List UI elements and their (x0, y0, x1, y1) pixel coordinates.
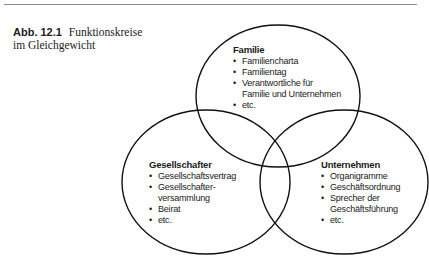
list-item: etc. (149, 215, 236, 226)
list-item: etc. (321, 215, 400, 226)
list-item: Organigramme (321, 171, 400, 182)
list-item: Familientag (233, 67, 341, 78)
list-item-continuation: Familie und Unternehmen (233, 89, 341, 100)
list-item-continuation: Geschäftsführung (321, 204, 400, 215)
list-item: etc. (233, 100, 341, 111)
list-item: Gesellschafter- (149, 182, 236, 193)
list-item: Sprecher der (321, 193, 400, 204)
list-item: Familiencharta (233, 56, 341, 67)
list-item: Geschäftsordnung (321, 182, 400, 193)
list-item: Verantwortliche für (233, 78, 341, 89)
list-item-continuation: versammlung (149, 193, 236, 204)
group-title: Unternehmen (321, 159, 400, 170)
group-familie: Familie Familiencharta Familientag Veran… (233, 44, 341, 111)
list-item: Beirat (149, 204, 236, 215)
list-item: Gesellschaftsvertrag (149, 171, 236, 182)
group-title: Familie (233, 44, 341, 55)
group-unternehmen: Unternehmen Organigramme Geschäftsordnun… (321, 159, 400, 226)
group-title: Gesellschafter (149, 159, 236, 170)
group-gesellschafter: Gesellschafter Gesellschaftsvertrag Gese… (149, 159, 236, 226)
